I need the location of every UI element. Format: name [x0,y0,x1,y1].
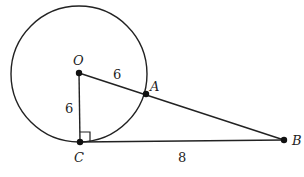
segment-ob [79,73,284,140]
point-a [143,91,149,97]
label-oc-length: 6 [65,101,73,116]
point-o [76,70,82,76]
label-o: O [73,53,84,68]
segment-cb [80,140,284,142]
label-oa-length: 6 [113,67,121,82]
label-c: C [74,150,84,165]
label-cb-length: 8 [178,150,186,165]
point-c [77,139,83,145]
label-a: A [149,79,159,94]
label-b: B [291,133,302,148]
point-b [281,137,287,143]
geometry-diagram: O A B C 6 6 8 [0,0,304,177]
segment-oc [79,73,80,142]
